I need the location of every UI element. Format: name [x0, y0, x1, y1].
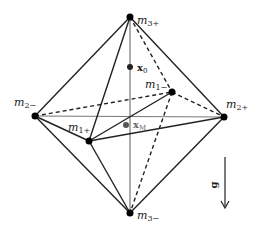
label-m1-minus: m1− [145, 78, 167, 92]
label-gravity: g [208, 182, 219, 189]
vertex-m1-minus [169, 89, 176, 96]
vertex-m2-plus [221, 114, 228, 121]
point-x0 [127, 64, 133, 70]
label-m2-plus: m2+ [226, 98, 248, 112]
label-m1-plus: m1+ [68, 121, 90, 135]
vertex-m3-minus [127, 210, 134, 217]
point-xM [123, 122, 129, 128]
label-x0: x0 [137, 62, 147, 75]
label-m2-minus: m2− [14, 96, 36, 110]
vertex-m1-plus [86, 138, 93, 145]
label-m3-plus: m3+ [137, 14, 159, 28]
vertex-m2-minus [32, 113, 39, 120]
vertex-m3-plus [127, 14, 134, 21]
gravity-arrow-icon [221, 157, 229, 208]
label-m3-minus: m3− [137, 209, 159, 223]
octahedron-diagram: m3+ m3− m2− m2+ m1− m1+ x0 xM g [0, 0, 259, 231]
label-xM: xM [133, 119, 146, 132]
